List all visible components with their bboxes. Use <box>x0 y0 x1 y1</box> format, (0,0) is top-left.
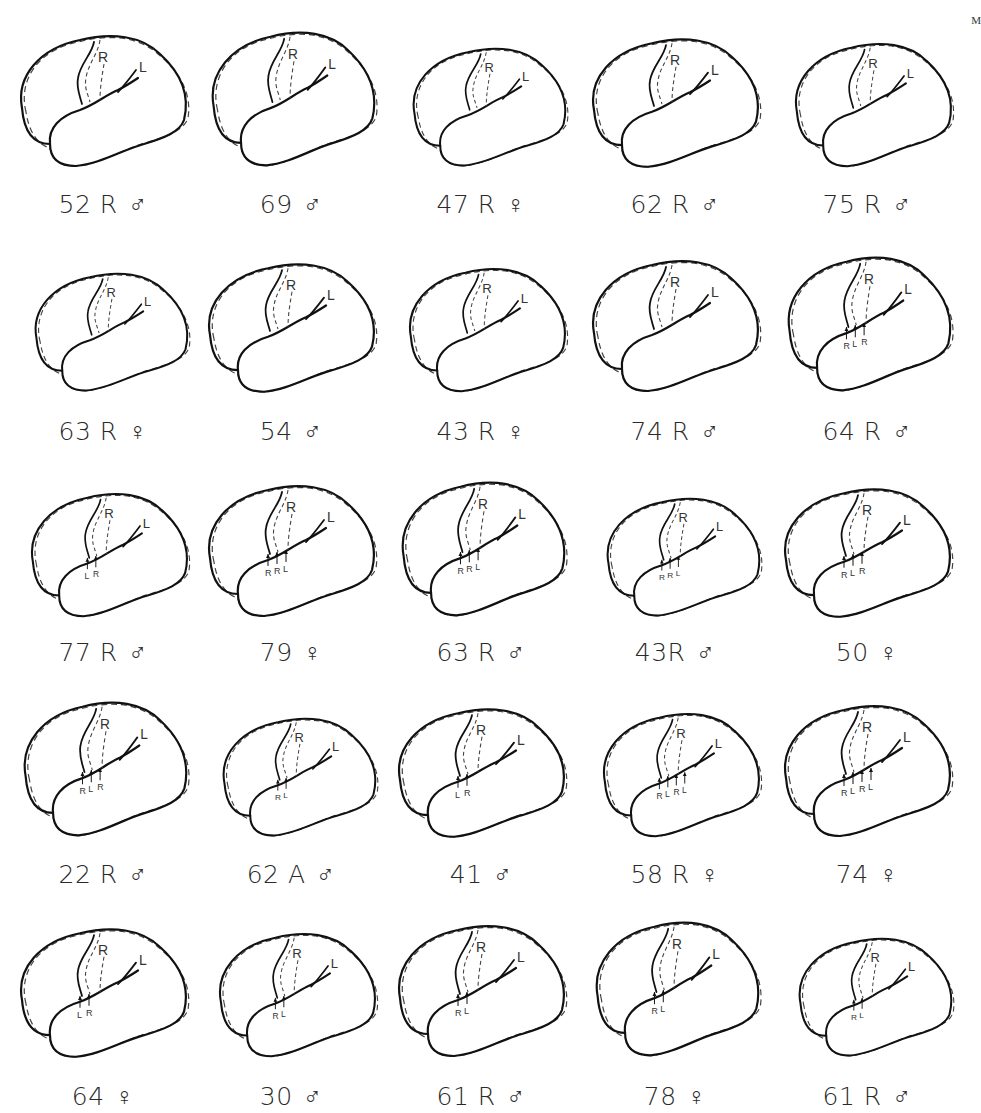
panel-caption: 61 R ♂ <box>386 1082 576 1111</box>
caption-age-hand: 61 R <box>823 1082 891 1111</box>
sylvian-endpoint-right <box>678 740 682 774</box>
male-symbol-icon: ♂ <box>303 417 322 446</box>
sylvian-arrow-label: L <box>85 571 90 581</box>
marker-right: R <box>294 730 303 745</box>
marker-left: L <box>327 509 335 525</box>
hemisphere-outline-drawing: R L <box>24 259 199 408</box>
caption-age-hand: 69 <box>260 190 301 219</box>
central-sulcus-left <box>85 500 101 558</box>
marker-left: L <box>331 956 338 971</box>
caption-age-hand: 58 R <box>631 860 699 889</box>
panel-caption: 61 R ♂ <box>772 1082 962 1111</box>
sylvian-endpoint-right <box>106 520 110 554</box>
arrowhead-icon <box>853 325 857 329</box>
temporal-lobe-line <box>440 86 521 145</box>
sylvian-arrow-group: LR <box>455 774 471 799</box>
arrowhead-icon <box>860 998 864 1002</box>
sylvian-arrow-label: L <box>464 1006 469 1016</box>
hemisphere-outline-drawing: R L <box>196 249 386 411</box>
temporal-lobe-line <box>238 528 326 594</box>
sylvian-endpoint-right <box>288 514 292 550</box>
panel-caption: 30 ♂ <box>196 1082 386 1111</box>
caption-age-hand: 43 R <box>437 417 505 446</box>
central-sulcus-left <box>659 504 674 560</box>
marker-left: L <box>332 739 339 754</box>
marker-left: L <box>139 59 147 75</box>
hemisphere-outline-drawing: R L LR <box>8 914 198 1076</box>
marker-right: R <box>864 271 874 287</box>
arrowhead-icon <box>661 990 665 994</box>
sylvian-arrow-label: R <box>464 788 471 798</box>
arrowhead-icon <box>666 776 670 780</box>
sylvian-arrow-label: L <box>859 1011 864 1020</box>
central-sulcus-left <box>455 932 472 994</box>
sylvian-arrow-label: R <box>80 786 87 796</box>
sylvian-arrow-label: L <box>850 568 855 578</box>
marker-right: R <box>286 499 296 515</box>
panel-caption: 63 R ♀ <box>8 417 198 446</box>
sylvian-endpoint-right <box>478 954 482 990</box>
temporal-lobe-line <box>53 746 139 813</box>
sylvian-arrow-label: R <box>93 569 99 579</box>
sylvian-arrow-label: L <box>281 1009 286 1019</box>
central-sulcus-left <box>463 275 479 333</box>
hemisphere-outline-drawing: R L <box>200 16 386 184</box>
marker-left: L <box>907 66 914 81</box>
sylvian-arrow-label: R <box>844 341 851 351</box>
sylvian-endpoint-right <box>102 731 106 768</box>
temporal-lobe-line <box>50 78 138 144</box>
sylvian-endpoint-right <box>866 286 870 323</box>
sylvian-endpoint-right <box>294 960 298 994</box>
temporal-lobe-line <box>431 526 517 593</box>
arrowhead-icon <box>851 772 855 776</box>
panel-caption: 22 R ♂ <box>8 860 198 889</box>
page-corner-mark: M <box>971 14 981 26</box>
female-symbol-icon: ♀ <box>879 860 898 889</box>
central-sulcus-left <box>80 709 96 772</box>
caption-age-hand: 41 <box>450 860 491 889</box>
sylvian-arrow-group: RL <box>273 996 286 1021</box>
central-sulcus-left <box>455 715 472 776</box>
caption-age-hand: 75 R <box>823 190 891 219</box>
caption-age-hand: 30 <box>260 1082 301 1111</box>
central-sulcus-left <box>841 495 858 556</box>
sylvian-arrow-label: R <box>265 568 272 578</box>
caption-age-hand: 22 R <box>59 860 127 889</box>
panel-caption: 50 ♀ <box>772 638 962 667</box>
central-sulcus-left <box>649 267 666 329</box>
sylvian-arrow-label: R <box>652 1006 659 1016</box>
marker-right: R <box>676 726 686 741</box>
marker-left: L <box>908 959 915 974</box>
marker-left: L <box>712 946 720 962</box>
brain-panel-r5-c3: R L RL 61 R ♂ <box>386 910 576 1113</box>
sylvian-endpoint-right <box>288 292 292 327</box>
arrowhead-icon <box>668 558 672 562</box>
panel-caption: 62 A ♂ <box>196 860 386 889</box>
temporal-lobe-line <box>634 536 715 595</box>
temporal-lobe-line <box>428 968 516 1034</box>
temporal-lobe-line <box>823 83 906 145</box>
central-sulcus-left <box>458 489 474 552</box>
arrowhead-icon <box>467 550 471 554</box>
caption-age-hand: 63 R <box>59 417 127 446</box>
sylvian-arrow-group: LR <box>77 994 93 1019</box>
temporal-lobe-line <box>625 966 711 1033</box>
central-sulcus-left <box>841 712 858 774</box>
hemisphere-outline-drawing: R L <box>402 34 577 183</box>
marker-left: L <box>327 287 335 303</box>
male-symbol-icon: ♂ <box>316 860 335 889</box>
sylvian-arrow-label: R <box>273 1011 279 1021</box>
caption-age-hand: 74 <box>836 860 877 889</box>
marker-right: R <box>98 942 108 958</box>
sylvian-arrow-label: L <box>660 1004 665 1014</box>
marker-right: R <box>100 716 110 732</box>
sylvian-arrow-label: R <box>86 1008 93 1018</box>
marker-left: L <box>715 736 722 751</box>
panel-caption: 62 R ♂ <box>580 190 770 219</box>
marker-right: R <box>106 285 115 300</box>
arrowhead-icon <box>89 770 93 774</box>
arrowhead-icon <box>465 774 469 778</box>
sylvian-arrow-group: LR <box>85 556 100 581</box>
marker-left: L <box>903 512 911 528</box>
brain-panel-r4-c1: R L RLR 22 R ♂ <box>8 690 198 910</box>
